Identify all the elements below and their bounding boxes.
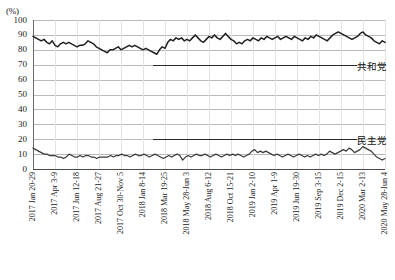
series-lines <box>33 20 385 169</box>
x-tick-label: 2019 Apr 1-9 <box>271 172 279 215</box>
x-axis-tick-labels: 2017 Jan 20-292017 Apr 3-92017 Jun 12-18… <box>33 172 385 278</box>
x-tick-label: 2018 Aug 6-12 <box>205 172 213 220</box>
line-republican <box>33 32 385 54</box>
plot-area <box>33 20 385 169</box>
x-tick-label: 2018 Jan 8-14 <box>139 172 147 217</box>
x-tick-label: 2019 Jun 19-30 <box>293 172 301 222</box>
y-tick-100: 100 <box>3 16 27 25</box>
y-tick-80: 80 <box>3 45 27 54</box>
x-tick-label: 2019 Sep 3-15 <box>315 172 323 219</box>
republican-leader-line <box>153 65 357 66</box>
y-tick-60: 60 <box>3 75 27 84</box>
y-tick-30: 30 <box>3 120 27 129</box>
y-tick-50: 50 <box>3 90 27 99</box>
y-tick-40: 40 <box>3 105 27 114</box>
y-tick-20: 20 <box>3 135 27 144</box>
y-tick-90: 90 <box>3 30 27 39</box>
x-tick-label: 2019 Jan 2-10 <box>249 172 257 217</box>
y-tick-70: 70 <box>3 60 27 69</box>
y-tick-0: 0 <box>3 165 27 174</box>
x-tick-label: 2020 May 28-Jun 4 <box>381 172 389 234</box>
x-axis-line <box>33 169 385 170</box>
series-label-democrat: 民主党 <box>357 133 387 147</box>
series-label-republican: 共和党 <box>357 59 387 73</box>
x-tick-label: 2018 Mar 19-25 <box>161 172 169 224</box>
x-tick-label: 2018 Oct 15-21 <box>227 172 235 222</box>
y-tick-10: 10 <box>3 150 27 159</box>
x-tick-label: 2019 Dec 2-15 <box>337 172 345 220</box>
x-tick-label: 2017 Aug 21-27 <box>95 172 103 224</box>
x-tick-label: 2017 Oct 30-Nov 5 <box>117 172 125 234</box>
chart-container: (%) 1009080706050403020100 共和党 民主党 2017 … <box>0 0 395 280</box>
x-tick-label: 2020 Mar 2-13 <box>359 172 367 220</box>
democrat-leader-line <box>153 139 357 140</box>
line-democrat <box>33 147 385 160</box>
x-tick-label: 2017 Jan 20-29 <box>29 172 37 221</box>
x-tick-label: 2017 Apr 3-9 <box>51 172 59 215</box>
x-tick-label: 2017 Jun 12-18 <box>73 172 81 222</box>
x-tick-label: 2018 May 28-Jun 3 <box>183 172 191 234</box>
